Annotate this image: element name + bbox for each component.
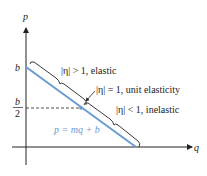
x-axis-label: q: [194, 142, 199, 153]
half-b-denominator: 2: [15, 108, 20, 119]
elasticity-diagram: p q b b 2 |η| > 1, elastic |η| = 1, unit…: [0, 0, 207, 176]
midpoint-marker: [79, 106, 83, 110]
unit-arrow: [86, 91, 95, 101]
inelastic-label: |η| < 1, inelastic: [116, 104, 180, 115]
unit-elasticity-label: |η| = 1, unit elasticity: [96, 84, 180, 95]
intercept-label: b: [15, 62, 20, 73]
y-axis-label: p: [22, 11, 28, 22]
half-b-numerator: b: [15, 96, 20, 107]
elastic-label: |η| > 1, elastic: [61, 65, 117, 76]
line-equation: p = mq + b: [53, 124, 100, 135]
